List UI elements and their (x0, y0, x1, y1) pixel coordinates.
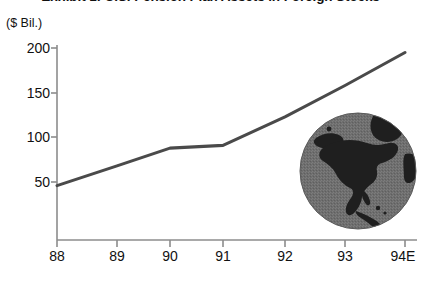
x-tick-label-92: 92 (277, 248, 293, 264)
y-tick-label-50: 50 (6, 174, 50, 190)
island-shape (383, 211, 386, 214)
y-tick-label-100: 100 (6, 129, 50, 145)
island-shape (376, 206, 380, 210)
x-tick-label-93: 93 (337, 248, 353, 264)
x-tick-label-88: 88 (49, 248, 65, 264)
x-tick-label-89: 89 (109, 248, 125, 264)
y-tick-label-200: 200 (6, 40, 50, 56)
x-axis-tick-labels: 88 89 90 91 92 93 94E (0, 248, 421, 272)
y-axis-tick-labels: 200 150 100 50 (0, 0, 50, 282)
x-tick-label-90: 90 (162, 248, 178, 264)
y-tick-label-150: 150 (6, 85, 50, 101)
x-tick-label-91: 91 (215, 248, 231, 264)
x-tick-label-94E: 94E (391, 248, 416, 264)
globe-icon (299, 112, 417, 230)
y-axis-ticks (51, 48, 57, 182)
island-shape (327, 127, 332, 132)
x-axis-ticks (57, 240, 405, 247)
chart-page: Exhibit 1: U.S. Pension Plan Assets in F… (0, 0, 421, 282)
